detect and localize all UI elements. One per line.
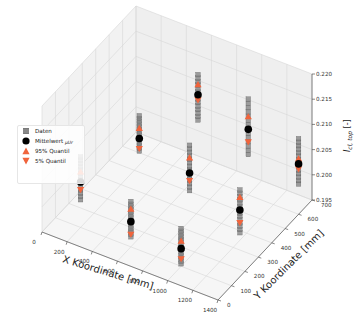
mean-marker: [127, 218, 135, 226]
legend-label: 5% Quantil: [35, 158, 66, 164]
data-point-square: [246, 105, 251, 110]
mean-marker: [135, 135, 143, 143]
z-tick-label: 0.215: [316, 96, 332, 102]
data-point-square: [196, 72, 201, 77]
legend-label-main: Mittelwert: [35, 138, 65, 144]
data-point-square: [296, 136, 301, 141]
mean-marker: [236, 206, 244, 214]
mean-marker: [186, 169, 194, 177]
y-tick-label: 600: [308, 216, 319, 222]
z-axis-label-sub: cl, top: [346, 131, 354, 150]
x-tick-label: 200: [54, 249, 65, 255]
data-point-square: [238, 188, 243, 193]
mean-marker: [177, 245, 185, 253]
y-tick-label: 500: [294, 231, 305, 237]
triangle-up-marker-icon: [21, 146, 31, 156]
legend-label: 95% Quantil: [35, 148, 69, 154]
legend-item-daten: Daten: [21, 126, 84, 136]
y-tick-label: 100: [240, 288, 251, 294]
data-point-square: [246, 148, 251, 153]
x-tick-label: 0: [32, 239, 36, 245]
z-tick-label: 0.200: [316, 172, 332, 178]
data-point-square: [246, 97, 251, 102]
legend: Daten Mittelwert μUr 95% Quantil 5% Quan…: [17, 125, 85, 184]
triangle-down-marker-icon: [21, 156, 31, 166]
x-tick-label: 1000: [153, 288, 168, 294]
mean-marker: [194, 91, 202, 99]
data-point-square: [246, 101, 251, 106]
y-tick-label: 400: [281, 245, 292, 251]
legend-item-95-quantil: 95% Quantil: [21, 146, 84, 156]
legend-label-sub: μUr: [65, 140, 73, 145]
legend-label: Daten: [35, 128, 52, 134]
legend-item-mittelwert: Mittelwert μUr: [21, 136, 84, 146]
mean-marker: [295, 160, 303, 168]
x-tick-label: 1200: [178, 297, 193, 303]
mean-marker: [244, 126, 252, 134]
legend-label: Mittelwert μUr: [35, 138, 73, 145]
z-tick-label: 0.205: [316, 147, 332, 153]
legend-item-5-quantil: 5% Quantil: [21, 156, 84, 166]
z-tick-label: 0.220: [316, 71, 332, 77]
data-point-square: [179, 226, 184, 231]
z-axis-label-unit: [-]: [343, 119, 352, 131]
x-tick-label: 1400: [203, 307, 218, 313]
data-point-square: [129, 199, 134, 204]
data-point-square: [187, 143, 192, 148]
z-tick-label: 0.210: [316, 121, 332, 127]
circle-marker-icon: [21, 136, 31, 146]
square-marker-icon: [21, 126, 31, 136]
z-axis-label: Icl, top [-]: [343, 119, 354, 152]
z-tick-label: 0.195: [316, 197, 332, 203]
y-tick-label: 0: [227, 302, 231, 308]
y-tick-label: 200: [254, 273, 265, 279]
data-point-square: [137, 113, 142, 118]
data-point-square: [246, 152, 251, 157]
data-point-square: [246, 135, 251, 140]
y-tick-label: 300: [267, 259, 278, 265]
